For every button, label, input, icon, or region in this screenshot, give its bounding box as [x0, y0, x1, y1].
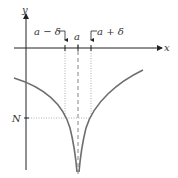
function-curve — [14, 70, 143, 172]
asymptote-diagram: y x a − δ a a + δ N — [0, 0, 178, 178]
axes — [14, 14, 162, 170]
labels: y x a − δ a a + δ N — [11, 4, 170, 124]
y-axis-label: y — [21, 4, 28, 15]
a-plus-delta-label: a + δ — [97, 26, 124, 37]
x-axis-label: x — [164, 42, 170, 53]
n-label: N — [11, 113, 22, 124]
curve-right-branch — [79, 70, 143, 172]
a-label: a — [74, 31, 80, 42]
a-minus-delta-label: a − δ — [34, 26, 61, 37]
curve-left-branch — [14, 78, 77, 172]
